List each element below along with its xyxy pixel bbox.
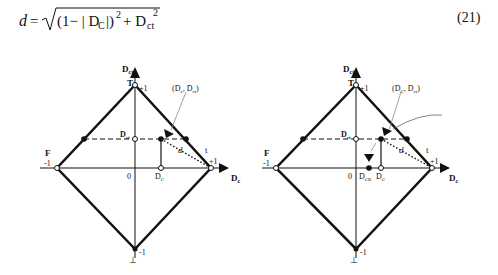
svg-text:Dct: Dct bbox=[120, 130, 130, 140]
svg-text:DC: DC bbox=[155, 172, 165, 182]
svg-text:⊥: ⊥ bbox=[129, 255, 137, 265]
svg-text:0: 0 bbox=[127, 172, 131, 181]
svg-text:Dct: Dct bbox=[343, 64, 354, 75]
svg-text:(Dc, Dct): (Dc, Dct) bbox=[172, 84, 199, 94]
svg-text:t: t bbox=[205, 145, 208, 155]
dcr-point bbox=[366, 165, 372, 171]
left-diagram: Dct T +1 (Dc, Dct) Dct F -1 t +1 d 0 DC … bbox=[40, 64, 241, 265]
bilattice-square bbox=[57, 85, 211, 249]
bilattice-figures: Dct T +1 (Dc, Dct) Dct F -1 t +1 d 0 DC … bbox=[0, 0, 498, 275]
svg-text:T: T bbox=[127, 78, 133, 88]
svg-text:-1: -1 bbox=[44, 159, 51, 168]
svg-text:-1: -1 bbox=[263, 159, 270, 168]
svg-text:Dc: Dc bbox=[449, 173, 459, 184]
svg-text:Dc: Dc bbox=[231, 173, 241, 184]
svg-text:-1: -1 bbox=[360, 248, 367, 257]
right-diagram: Dct T +1 (DC, Dct) Dct F -1 t +1 d 0 DCR… bbox=[262, 64, 459, 265]
svg-text:(DC, Dct): (DC, Dct) bbox=[392, 84, 420, 94]
svg-text:T: T bbox=[348, 78, 354, 88]
point-dc-dct bbox=[158, 136, 164, 142]
svg-text:F: F bbox=[264, 148, 270, 158]
svg-text:0: 0 bbox=[348, 172, 352, 181]
svg-text:+1: +1 bbox=[430, 157, 439, 166]
svg-text:Dct: Dct bbox=[122, 64, 133, 75]
svg-text:d: d bbox=[399, 145, 404, 155]
svg-text:⊥: ⊥ bbox=[350, 255, 358, 265]
x-axis-arrow-icon bbox=[440, 163, 450, 173]
dcr-arrow-icon bbox=[364, 154, 374, 162]
x-axis-arrow-icon bbox=[219, 163, 229, 173]
svg-text:DCR: DCR bbox=[359, 172, 372, 182]
svg-text:+1: +1 bbox=[209, 157, 218, 166]
svg-text:d: d bbox=[178, 145, 183, 155]
svg-text:F: F bbox=[45, 148, 51, 158]
pointer-arrow-icon bbox=[164, 129, 174, 138]
svg-text:+1: +1 bbox=[139, 84, 148, 93]
svg-text:-1: -1 bbox=[139, 248, 146, 257]
svg-text:DC: DC bbox=[376, 172, 386, 182]
svg-text:+1: +1 bbox=[360, 84, 369, 93]
svg-text:Dct: Dct bbox=[341, 130, 351, 140]
svg-text:t: t bbox=[426, 145, 429, 155]
distance-line bbox=[161, 139, 211, 168]
